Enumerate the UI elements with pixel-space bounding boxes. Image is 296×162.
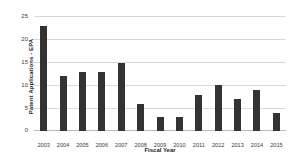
x-axis-title: Fiscal Year — [34, 147, 286, 154]
bar-2006 — [98, 72, 105, 131]
bar-slot — [189, 16, 208, 131]
bar-slot — [34, 16, 53, 131]
bar-slot — [209, 16, 228, 131]
bar-2014 — [253, 90, 260, 131]
bar-2010 — [176, 117, 183, 131]
bar-chart-figure: 25 20 15 10 5 0 Patent Applications - EP… — [0, 0, 296, 162]
bar-2005 — [79, 72, 86, 131]
bar-slot — [73, 16, 92, 131]
bar-slot — [131, 16, 150, 131]
bar-slot — [228, 16, 247, 131]
bar-2015 — [273, 113, 280, 131]
bar-slot — [247, 16, 266, 131]
bars-layer — [34, 16, 286, 131]
bar-2007 — [118, 63, 125, 131]
bar-2012 — [215, 85, 222, 131]
bar-2004 — [60, 76, 67, 131]
bar-slot — [267, 16, 286, 131]
bar-2003 — [40, 26, 47, 131]
bar-2013 — [234, 99, 241, 131]
bar-slot — [92, 16, 111, 131]
bar-slot — [170, 16, 189, 131]
bar-slot — [53, 16, 72, 131]
bar-slot — [112, 16, 131, 131]
bar-2009 — [157, 117, 164, 131]
bar-2011 — [195, 95, 202, 131]
bar-2008 — [137, 104, 144, 131]
bar-slot — [150, 16, 169, 131]
